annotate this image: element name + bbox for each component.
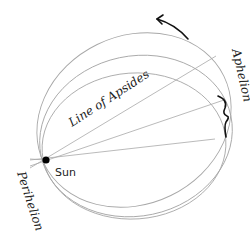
- aphelion-label: Aphelion: [229, 47, 250, 104]
- orbit-2: [24, 38, 247, 235]
- orbits: [7, 1, 250, 240]
- apsides-lines: [30, 56, 224, 168]
- sun-icon: [42, 156, 49, 163]
- perihelion-label: Perihelion: [14, 169, 47, 233]
- sun-label: Sun: [55, 166, 76, 179]
- apsides-diagram: Sun Line of Apsides Aphelion Perihelion: [0, 0, 250, 250]
- precession-arrow-icon: [157, 15, 188, 39]
- apsides-line-3: [30, 139, 215, 160]
